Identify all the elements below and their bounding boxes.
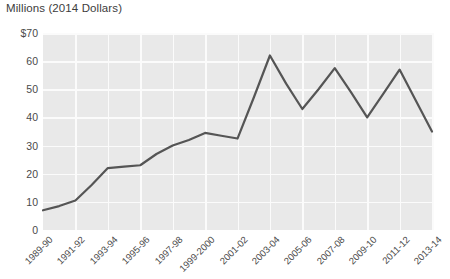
data-series-line [0,0,450,279]
chart-container: Millions (2014 Dollars) $706050403020100… [0,0,450,279]
series-line-funding [43,56,432,211]
